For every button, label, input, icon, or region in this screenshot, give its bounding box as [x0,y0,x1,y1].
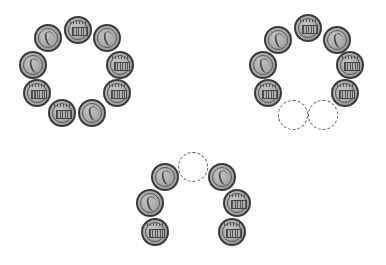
memorial-building-icon [114,62,130,71]
lincoln-profile-icon [273,32,287,49]
penny-coin-icon [223,189,251,217]
penny-coin-icon [151,163,179,191]
penny-coin-icon [264,26,292,54]
coin-inscription-icon [337,84,353,87]
coin-inscription-icon [112,56,128,59]
penny-coin-icon [34,24,62,52]
memorial-building-icon [72,27,88,36]
memorial-building-icon [149,229,165,238]
penny-coin-icon [48,99,76,127]
penny-coin-icon [93,24,121,52]
memorial-building-icon [302,25,318,34]
penny-coin-icon [64,16,92,44]
lincoln-profile-icon [87,105,101,122]
coin-inscription-icon [229,194,245,197]
lincoln-profile-icon [160,169,174,186]
penny-coin-icon [249,51,277,79]
memorial-building-icon [226,229,242,238]
penny-coin-icon [218,218,246,246]
penny-coin-icon [106,51,134,79]
penny-coin-icon [208,163,236,191]
coin-inscription-icon [224,223,240,226]
missing-coin-placeholder [178,152,208,182]
penny-coin-icon [141,218,169,246]
lincoln-profile-icon [43,30,57,47]
coin-inscription-icon [70,21,86,24]
lincoln-profile-icon [258,57,272,74]
coin-inscription-icon [147,223,163,226]
penny-coin-icon [336,51,364,79]
memorial-building-icon [56,110,72,119]
penny-coin-icon [19,51,47,79]
memorial-building-icon [231,200,247,209]
memorial-building-icon [339,90,355,99]
lincoln-profile-icon [217,169,231,186]
penny-coin-icon [254,79,282,107]
penny-coin-icon [294,14,322,42]
memorial-building-icon [344,62,360,71]
penny-coin-icon [323,26,351,54]
penny-coin-icon [136,189,164,217]
lincoln-profile-icon [145,195,159,212]
missing-coin-placeholder [308,100,338,130]
lincoln-profile-icon [28,57,42,74]
lincoln-profile-icon [332,32,346,49]
coin-inscription-icon [54,104,70,107]
coin-inscription-icon [342,56,358,59]
penny-coin-icon [23,79,51,107]
memorial-building-icon [262,90,278,99]
penny-ring-diagram [0,0,386,265]
memorial-building-icon [111,90,127,99]
memorial-building-icon [31,90,47,99]
coin-inscription-icon [300,19,316,22]
penny-coin-icon [331,79,359,107]
coin-inscription-icon [109,84,125,87]
penny-coin-icon [78,99,106,127]
penny-coin-icon [103,79,131,107]
lincoln-profile-icon [102,30,116,47]
coin-inscription-icon [29,84,45,87]
coin-inscription-icon [260,84,276,87]
missing-coin-placeholder [278,100,308,130]
